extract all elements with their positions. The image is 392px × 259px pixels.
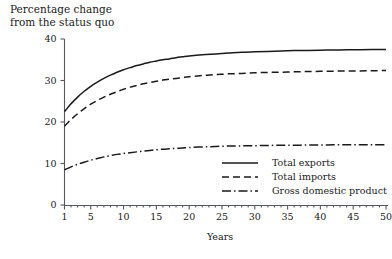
- x-tick-label: 35: [282, 211, 294, 222]
- y-tick-label: 10: [44, 158, 56, 169]
- x-tick-label: 15: [150, 211, 162, 222]
- x-tick-label: 25: [216, 211, 228, 222]
- chart-title-line1: Percentage change: [10, 3, 112, 15]
- y-tick-label: 20: [44, 116, 56, 127]
- line-chart: Percentage change from the status quo 01…: [0, 0, 392, 259]
- x-tick-label: 1: [61, 211, 67, 222]
- chart-background: [0, 0, 392, 259]
- x-tick-label: 10: [118, 211, 130, 222]
- legend-label: Total imports: [272, 171, 336, 182]
- legend-label: Gross domestic product: [272, 185, 387, 196]
- x-tick-label: 50: [380, 211, 392, 222]
- legend-label: Total exports: [272, 157, 335, 168]
- y-tick-label: 0: [50, 199, 56, 210]
- x-tick-label: 30: [249, 211, 261, 222]
- x-tick-label: 45: [347, 211, 359, 222]
- x-tick-label: 20: [183, 211, 195, 222]
- chart-svg: Percentage change from the status quo 01…: [0, 0, 392, 259]
- y-tick-label: 30: [44, 75, 56, 86]
- x-tick-label: 5: [88, 211, 94, 222]
- x-axis-title: Years: [206, 231, 233, 242]
- y-tick-label: 40: [44, 33, 56, 44]
- x-tick-label: 40: [314, 211, 326, 222]
- chart-title-line2: from the status quo: [10, 16, 114, 28]
